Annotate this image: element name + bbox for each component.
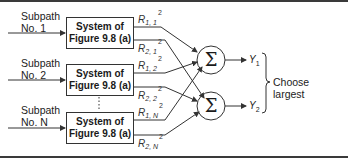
subpath-label-line: No. 1 xyxy=(21,22,60,34)
box-label-line: System of xyxy=(67,21,133,33)
subpath-label-line: Subpath xyxy=(21,104,60,116)
subpath-n-label: Subpath No. N xyxy=(21,104,60,128)
subpath-label-line: Subpath xyxy=(21,57,60,69)
output-r21: R2, 12 xyxy=(138,42,162,55)
decision-line: largest xyxy=(273,88,309,100)
system-box-1: System of Figure 9.8 (a) xyxy=(66,17,134,49)
summation-icon: Σ xyxy=(197,46,225,74)
subpath-2-label: Subpath No. 2 xyxy=(21,57,60,81)
box-label-line: System of xyxy=(67,68,133,80)
subpath-label-line: Subpath xyxy=(21,10,60,22)
system-box-n: System of Figure 9.8 (a) xyxy=(66,112,134,144)
box-label-line: Figure 9.8 (a) xyxy=(67,33,133,45)
subpath-1-label: Subpath No. 1 xyxy=(21,10,60,34)
subpath-label-line: No. N xyxy=(21,116,60,128)
decision-line: Choose xyxy=(273,76,309,88)
system-box-2: System of Figure 9.8 (a) xyxy=(66,64,134,96)
box-label-line: Figure 9.8 (a) xyxy=(67,128,133,140)
box-label-line: Figure 9.8 (a) xyxy=(67,80,133,92)
choose-largest-label: Choose largest xyxy=(273,76,309,100)
result-y1: Y1 xyxy=(249,54,260,67)
result-y2: Y2 xyxy=(249,100,260,113)
output-r22: R2, 22 xyxy=(138,89,162,102)
subpath-label-line: No. 2 xyxy=(21,69,60,81)
output-r11: R1, 12 xyxy=(138,13,162,26)
box-label-line: System of xyxy=(67,116,133,128)
output-r1n: R1, N2 xyxy=(138,106,163,119)
output-r2n: R2, N2 xyxy=(138,137,163,150)
summation-icon: Σ xyxy=(197,92,225,120)
output-r12: R1, 22 xyxy=(138,59,162,72)
